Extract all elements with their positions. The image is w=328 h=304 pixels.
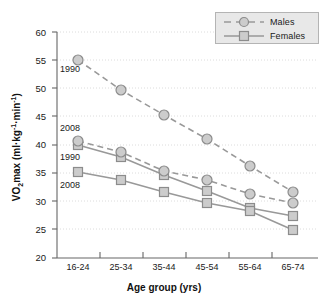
vo2max-line-chart: 60 55 50 45 40 35 30 25 20 [0,0,328,304]
y-axis-title-sub2: 2 [17,183,24,187]
legend[interactable]: Males Females [215,12,319,44]
x-tick-25-34: 25-34 [98,262,144,272]
series-line-males-1990 [78,60,293,192]
grid-lines [57,32,318,229]
legend-item-males[interactable]: Males [222,15,295,29]
y-axis-title-vo: VO [11,187,22,201]
x-axis-title: Age group (yrs) [0,282,328,293]
annotation-males-2008: 2008 [60,123,80,133]
series-line-females-1990 [78,145,293,216]
annotation-females-2008: 2008 [60,180,80,190]
y-axis-title-sup1: -1 [10,124,17,130]
annotation-males-1990: 1990 [60,64,80,74]
x-tick-55-64: 55-64 [227,262,273,272]
annotation-females-1990: 1990 [60,152,80,162]
legend-label-males: Males [270,17,295,27]
x-tick-35-44: 35-44 [141,262,187,272]
series-line-females-2008 [78,172,293,230]
y-axis-title-sup2: -1 [10,96,17,102]
legend-symbol-males-dashed-circle [222,16,266,28]
y-axis-title: VO2max (ml·kg-1·min-1) [10,72,24,222]
x-tick-65-74: 65-74 [270,262,316,272]
legend-item-females[interactable]: Females [222,29,305,43]
legend-label-females: Females [270,31,305,41]
x-tick-45-54: 45-54 [184,262,230,272]
y-axis-title-mid: ·min [11,103,22,124]
plot-area [0,0,328,304]
y-axis-title-rest: max (ml·kg [11,130,22,183]
y-axis-title-close: ) [11,93,22,96]
legend-symbol-females-solid-square [222,30,266,42]
x-tick-16-24: 16-24 [55,262,101,272]
